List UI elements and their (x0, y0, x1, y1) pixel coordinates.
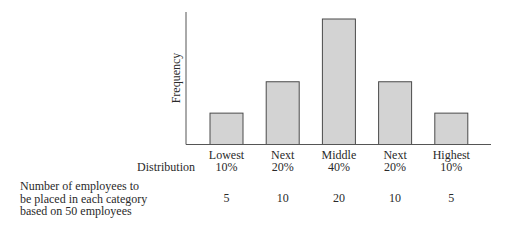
category-label: 10% (440, 160, 462, 174)
bars-group (210, 19, 468, 145)
bar (322, 19, 355, 145)
bar (379, 82, 412, 145)
category-labels: Lowest10%Next20%Middle40%Next20%Highest1… (209, 148, 471, 174)
bar (210, 113, 243, 144)
bar (266, 82, 299, 145)
category-label: 20% (384, 160, 406, 174)
employee-count: 20 (333, 191, 345, 205)
bar (435, 113, 468, 144)
employee-count: 5 (224, 191, 230, 205)
x-axis-label: Distribution (137, 160, 195, 174)
category-label: 40% (328, 160, 350, 174)
row-label-line: based on 50 employees (20, 205, 147, 218)
employee-count: 5 (448, 191, 454, 205)
y-axis-label: Frequency (169, 53, 183, 104)
row-label-line: Number of employees to (20, 180, 147, 193)
employee-count: 10 (277, 191, 289, 205)
employee-count-row-label: Number of employees to be placed in each… (20, 180, 147, 218)
category-label: 10% (216, 160, 238, 174)
employee-count-row: 51020105 (224, 191, 455, 205)
employee-count: 10 (389, 191, 401, 205)
category-label: 20% (272, 160, 294, 174)
